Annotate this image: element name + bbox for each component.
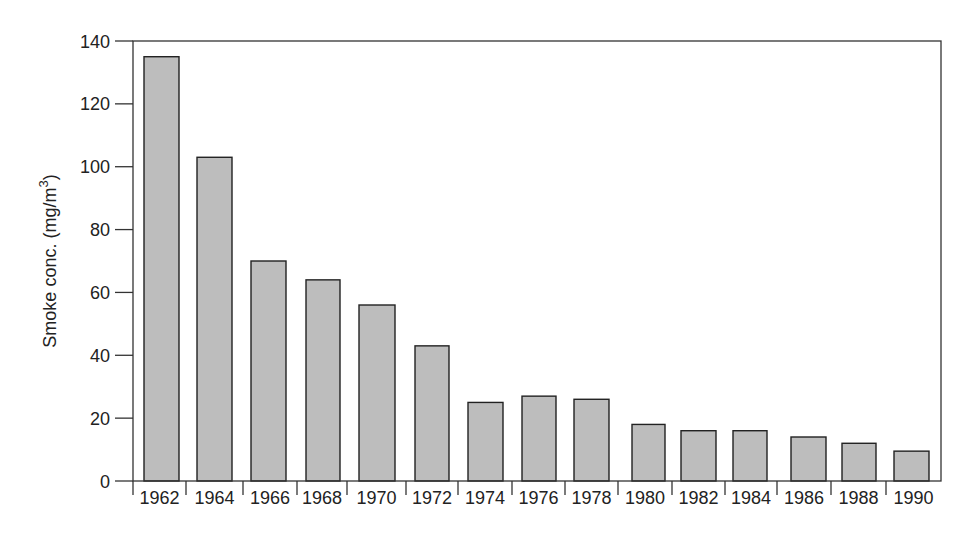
y-tick-label: 100 bbox=[80, 157, 110, 177]
bar-chart: Smoke conc. (mg/m3) 020406080100120140 1… bbox=[0, 0, 971, 541]
bar-1980 bbox=[632, 424, 665, 481]
y-tick-label: 40 bbox=[90, 346, 110, 366]
x-tick-label: 1986 bbox=[784, 488, 824, 508]
x-axis-ticks: 1962196419661968197019721974197619781980… bbox=[133, 481, 934, 508]
bar-1988 bbox=[842, 443, 876, 481]
x-tick-label: 1964 bbox=[194, 488, 234, 508]
bar-1982 bbox=[681, 431, 716, 481]
y-axis-label-superscript: 3 bbox=[36, 180, 51, 187]
bar-1976 bbox=[522, 396, 556, 481]
bar-1978 bbox=[574, 399, 609, 481]
y-tick-label: 140 bbox=[80, 32, 110, 52]
bar-1990 bbox=[894, 451, 929, 481]
x-tick-label: 1976 bbox=[518, 488, 558, 508]
y-tick-label: 0 bbox=[100, 472, 110, 492]
y-tick-label: 60 bbox=[90, 283, 110, 303]
y-tick-label: 20 bbox=[90, 409, 110, 429]
y-axis-label-text: Smoke conc. (mg/m bbox=[40, 188, 60, 348]
bar-1968 bbox=[306, 280, 340, 481]
x-tick-label: 1974 bbox=[465, 488, 505, 508]
y-tick-label: 120 bbox=[80, 94, 110, 114]
y-tick-label: 80 bbox=[90, 220, 110, 240]
x-tick-label: 1984 bbox=[731, 488, 771, 508]
x-tick-label: 1978 bbox=[571, 488, 611, 508]
chart-canvas: Smoke conc. (mg/m3) 020406080100120140 1… bbox=[0, 0, 971, 541]
y-axis-ticks: 020406080100120140 bbox=[80, 32, 133, 492]
svg-text:Smoke conc. (mg/m3): Smoke conc. (mg/m3) bbox=[36, 174, 60, 347]
x-tick-label: 1990 bbox=[893, 488, 933, 508]
x-tick-label: 1982 bbox=[678, 488, 718, 508]
x-tick-label: 1972 bbox=[412, 488, 452, 508]
y-axis-label-suffix: ) bbox=[40, 174, 60, 180]
bar-1986 bbox=[791, 437, 826, 481]
x-tick-label: 1966 bbox=[250, 488, 290, 508]
bar-1974 bbox=[468, 402, 503, 481]
bar-1970 bbox=[359, 305, 395, 481]
bar-1984 bbox=[733, 431, 767, 481]
bar-1966 bbox=[251, 261, 286, 481]
x-tick-label: 1962 bbox=[139, 488, 179, 508]
x-tick-label: 1968 bbox=[302, 488, 342, 508]
x-tick-label: 1988 bbox=[838, 488, 878, 508]
bars bbox=[144, 57, 929, 481]
y-axis-label: Smoke conc. (mg/m3) bbox=[36, 174, 60, 347]
bar-1962 bbox=[144, 57, 179, 481]
bar-1964 bbox=[197, 157, 232, 481]
x-tick-label: 1980 bbox=[625, 488, 665, 508]
x-tick-label: 1970 bbox=[356, 488, 396, 508]
bar-1972 bbox=[415, 346, 449, 481]
